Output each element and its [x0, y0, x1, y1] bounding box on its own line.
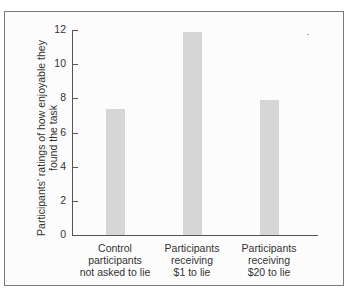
- y-tick-label: 8: [46, 91, 66, 103]
- bar: [260, 100, 279, 235]
- y-tick: [72, 133, 78, 134]
- y-tick: [72, 235, 78, 236]
- y-tick-label: 4: [46, 160, 66, 172]
- x-axis: [72, 235, 318, 236]
- y-tick-label: 0: [46, 228, 66, 240]
- x-category-label: Participantsreceiving$20 to lie: [224, 242, 314, 278]
- bar: [183, 32, 202, 235]
- y-tick: [72, 98, 78, 99]
- y-tick-label: 10: [46, 57, 66, 69]
- y-tick: [72, 167, 78, 168]
- y-tick: [72, 64, 78, 65]
- bar: [106, 109, 125, 235]
- y-tick: [72, 201, 78, 202]
- stray-mark: [307, 34, 309, 35]
- y-tick: [72, 30, 78, 31]
- y-tick-label: 6: [46, 126, 66, 138]
- y-tick-label: 2: [46, 194, 66, 206]
- y-tick-label: 12: [46, 23, 66, 35]
